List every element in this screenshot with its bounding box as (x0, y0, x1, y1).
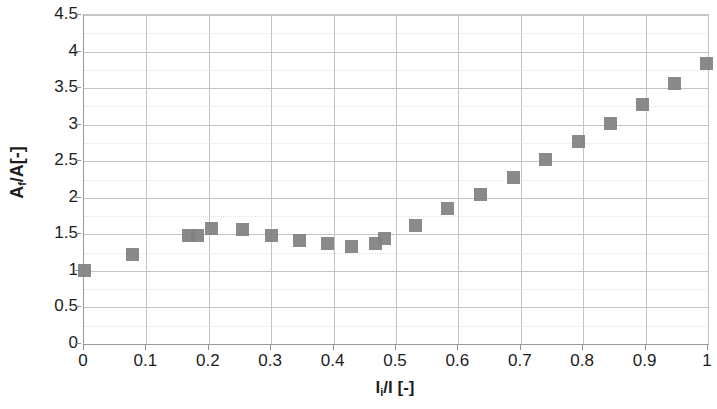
chart-figure: Af/A[-] 00.511.522.533.544.5 00.10.20.30… (0, 0, 717, 409)
data-point-marker (474, 188, 487, 201)
x-axis-tick-label: 1 (677, 351, 717, 371)
data-point-marker (441, 202, 454, 215)
gridline-vertical-major (146, 15, 147, 344)
data-point-marker (345, 240, 358, 253)
x-axis-tick-label: 0 (53, 351, 113, 371)
y-axis-tick-mark (75, 197, 81, 198)
x-axis-tick-mark (457, 344, 458, 350)
data-point-marker (78, 264, 91, 277)
gridline-vertical-major (458, 15, 459, 344)
data-point-marker (507, 171, 520, 184)
data-point-marker (321, 237, 334, 250)
gridline-vertical-major (583, 15, 584, 344)
x-axis-tick-mark (645, 344, 646, 350)
data-point-marker (636, 98, 649, 111)
gridline-vertical-major (334, 15, 335, 344)
y-axis-tick-mark (75, 233, 81, 234)
x-axis-tick-label: 0.9 (615, 351, 675, 371)
plot-area (83, 14, 709, 345)
data-point-marker (700, 57, 713, 70)
gridline-vertical-major (521, 15, 522, 344)
x-axis-tick-label: 0.8 (552, 351, 612, 371)
x-axis-tick-mark (520, 344, 521, 350)
gridline-vertical-major (209, 15, 210, 344)
x-axis-title: li/l [-] (83, 378, 707, 398)
data-point-marker (539, 153, 552, 166)
data-point-marker (236, 223, 249, 236)
data-point-marker (409, 219, 422, 232)
x-axis-title-subscript: i (380, 386, 383, 398)
x-axis-tick-label: 0.3 (240, 351, 300, 371)
data-point-marker (265, 229, 278, 242)
data-point-marker (191, 229, 204, 242)
x-axis-tick-labels: 00.10.20.30.40.50.60.70.80.91 (83, 351, 707, 375)
y-axis-tick-marks (0, 14, 90, 343)
x-axis-tick-label: 0.4 (303, 351, 363, 371)
y-axis-tick-mark (75, 124, 81, 125)
x-axis-tick-label: 0.2 (178, 351, 238, 371)
data-point-marker (205, 222, 218, 235)
x-axis-tick-mark (582, 344, 583, 350)
x-axis-tick-label: 0.6 (427, 351, 487, 371)
data-point-marker (668, 77, 681, 90)
x-axis-tick-mark (208, 344, 209, 350)
y-axis-tick-mark (75, 51, 81, 52)
data-point-marker (293, 234, 306, 247)
y-axis-tick-mark (75, 14, 81, 15)
x-axis-title-rest: /l [-] (383, 378, 414, 397)
x-axis-tick-mark (83, 344, 84, 350)
gridline-vertical-major (271, 15, 272, 344)
x-axis-tick-label: 0.5 (365, 351, 425, 371)
data-point-marker (572, 135, 585, 148)
x-axis-tick-mark (333, 344, 334, 350)
x-axis-tick-label: 0.1 (115, 351, 175, 371)
data-point-marker (126, 248, 139, 261)
data-point-marker (604, 117, 617, 130)
gridline-vertical-major (646, 15, 647, 344)
y-axis-tick-mark (75, 87, 81, 88)
x-axis-tick-mark (395, 344, 396, 350)
y-axis-tick-mark (75, 306, 81, 307)
y-axis-tick-mark (75, 343, 81, 344)
y-axis-tick-mark (75, 160, 81, 161)
x-axis-tick-mark (270, 344, 271, 350)
gridline-vertical-major (396, 15, 397, 344)
data-point-marker (378, 232, 391, 245)
x-axis-tick-label: 0.7 (490, 351, 550, 371)
x-axis-tick-mark (145, 344, 146, 350)
x-axis-tick-mark (707, 344, 708, 350)
